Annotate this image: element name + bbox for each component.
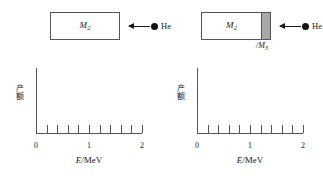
x-axis-title-a: E/MeV [36,156,142,165]
schematic-a: M2 He [0,0,161,62]
x-tick [250,125,251,133]
x-tick [131,125,132,133]
x-tick-label: 0 [195,142,199,150]
x-tick-label: 1 [248,142,252,150]
x-tick [229,125,230,133]
x-tick-label: 2 [301,142,305,150]
x-tick [78,125,79,133]
target-label-a-symbol: M [79,20,87,30]
x-axis-line-b [197,133,303,134]
panel-b: M2 /M3 He 产额 [161,0,322,180]
y-axis-line-b [197,68,198,134]
projectile-b: He [280,21,322,31]
x-axis-title-b-unit: /MeV [242,155,263,165]
y-axis-line-a [36,68,37,134]
nucleus-dot-icon [151,23,158,30]
y-axis-title-b: 产额 [175,84,183,100]
x-tick [110,125,111,133]
target-label-b-subscript: 2 [234,24,237,31]
arrow-left-icon [129,26,150,27]
x-tick [47,125,48,133]
target-label-b: M2 [202,21,270,31]
nucleus-dot-icon [302,23,309,30]
x-tick [89,125,90,133]
slab-callout-label: /M3 [256,42,268,51]
x-tick [68,125,69,133]
axes-a: 0 1 2 [36,68,142,134]
target-box-b: M2 [201,12,271,40]
x-tick [282,125,283,133]
x-axis-title-a-unit: /MeV [81,155,102,165]
x-axis-title-b: E/MeV [197,156,303,165]
plot-a: 产额 0 1 2 E/MeV [0,62,161,180]
slab-layer [261,13,270,39]
schematic-b: M2 /M3 He [161,0,322,62]
y-axis-title-a: 产额 [14,84,22,100]
x-tick [57,125,58,133]
x-tick-label: 2 [140,142,144,150]
x-tick [121,125,122,133]
projectile-label-b: He [312,22,322,31]
x-tick [142,125,143,133]
axes-b: 0 1 2 [197,68,303,134]
panel-a: M2 He 产额 [0,0,161,180]
slab-callout-symbol: /M [256,41,265,50]
x-axis-line-a [36,133,142,134]
target-label-a-subscript: 2 [87,24,90,31]
x-tick [271,125,272,133]
x-tick [303,125,304,133]
x-tick [239,125,240,133]
x-tick-label: 0 [34,142,38,150]
physics-figure: M2 He 产额 [0,0,323,180]
x-tick [292,125,293,133]
target-box-a: M2 [50,12,120,40]
x-tick-label: 1 [87,142,91,150]
arrow-left-icon [280,26,301,27]
x-tick [100,125,101,133]
x-tick [218,125,219,133]
slab-callout-subscript: 3 [265,45,268,51]
target-label-a: M2 [51,21,119,31]
x-tick [208,125,209,133]
x-tick [261,125,262,133]
target-label-b-symbol: M [226,20,234,30]
plot-b: 产额 0 1 2 E/MeV [161,62,322,180]
